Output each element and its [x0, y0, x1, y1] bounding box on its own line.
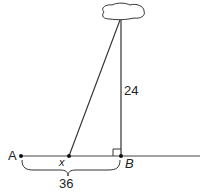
label-x: x: [58, 156, 65, 168]
point-b: [119, 154, 123, 158]
cloud-icon: [103, 3, 145, 20]
label-height: 24: [124, 83, 138, 98]
distance-brace: [22, 160, 120, 176]
label-distance: 36: [59, 176, 73, 191]
point-x: [67, 154, 71, 158]
label-b: B: [125, 156, 134, 171]
label-a: A: [8, 148, 17, 163]
slanted-segment: [69, 20, 120, 156]
diagram-canvas: A x B 24 36: [0, 0, 206, 194]
point-a: [19, 154, 23, 158]
